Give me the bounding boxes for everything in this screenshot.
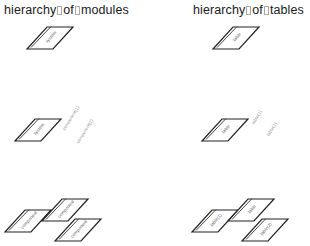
node-plate: table	[202, 119, 248, 142]
node-plate: system	[27, 27, 73, 50]
detached-label: component(2)	[75, 118, 94, 145]
node-plate: system	[15, 119, 61, 142]
node-plate: component	[55, 218, 101, 241]
hierarchy-diagram: systemsystemcomponent(1)component(2)comp…	[0, 0, 310, 246]
detached-label: component(1)	[61, 105, 80, 132]
detached-label: table(1)	[251, 109, 264, 125]
node-plate: table	[213, 27, 259, 50]
node-plate: table(2)	[242, 219, 288, 242]
detached-label: table(2)	[266, 121, 279, 137]
